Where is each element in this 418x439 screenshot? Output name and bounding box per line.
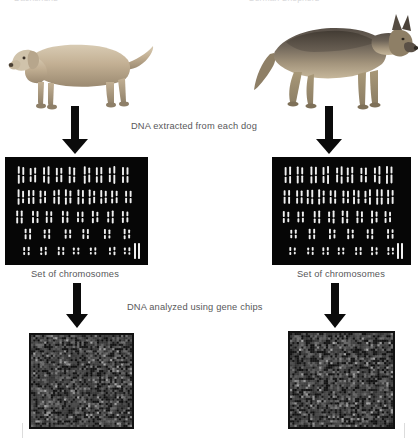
arrow-shepherd-to-genechip: [322, 283, 348, 328]
gene-chip-dachshund: [29, 333, 134, 429]
arrow-shaft: [71, 106, 79, 140]
karyotype-german-shepherd: [272, 157, 411, 265]
arrow-head: [316, 139, 342, 154]
clipped-heading-left: Dachshund: [14, 0, 58, 3]
arrow-head: [62, 139, 88, 154]
arrow-head: [66, 314, 88, 328]
clipped-heading-right: German Shepherd: [248, 0, 319, 3]
arrow-shaft: [331, 283, 339, 314]
caption-chromosomes-left: Set of chromosomes: [31, 269, 119, 279]
dachshund-photo: [8, 20, 160, 112]
arrow-shaft: [73, 283, 81, 314]
caption-chromosomes-right: Set of chromosomes: [297, 269, 385, 279]
arrow-dachshund-to-genechip: [64, 283, 90, 328]
registration-tick-left: [22, 423, 23, 438]
arrow-head: [324, 314, 346, 328]
gene-chip-german-shepherd: [288, 331, 395, 429]
arrow-dachshund-to-karyotype: [62, 106, 88, 154]
process-label-analyze: DNA analyzed using gene chips: [127, 302, 263, 312]
process-label-extract: DNA extracted from each dog: [131, 121, 257, 131]
arrow-shepherd-to-karyotype: [316, 106, 342, 154]
dna-analysis-figure: Dachshund German Shepherd: [0, 0, 418, 439]
german-shepherd-photo: [252, 6, 418, 114]
arrow-shaft: [325, 106, 333, 140]
karyotype-dachshund: [5, 157, 148, 265]
registration-tick-right: [404, 423, 405, 438]
